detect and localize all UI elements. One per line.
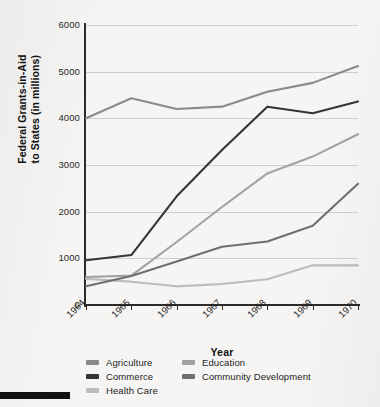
y-axis-tick-label: 1000	[40, 252, 80, 263]
legend-swatch-icon	[86, 388, 99, 393]
legend-column-right: EducationCommunity Development	[182, 356, 362, 384]
scan-artifact-bar	[0, 392, 70, 399]
series-line-commerce	[86, 102, 358, 261]
legend-label: Commerce	[106, 371, 153, 382]
legend-item[interactable]: Agriculture	[86, 356, 186, 369]
chart-page: Federal Grants-in-Aid to States (in mill…	[0, 0, 380, 407]
legend-label: Agriculture	[106, 357, 153, 368]
legend-swatch-icon	[182, 374, 195, 379]
series-line-community-development	[86, 184, 358, 287]
legend-swatch-icon	[182, 360, 195, 365]
y-axis-tick-labels: 0100020003000400050006000	[38, 25, 80, 305]
legend-swatch-icon	[86, 360, 99, 365]
y-axis-tick-label: 6000	[40, 19, 80, 30]
legend-label: Health Care	[106, 385, 158, 396]
y-axis-tick-label: 5000	[40, 66, 80, 77]
series-lines	[86, 25, 358, 305]
y-axis-tick-label: 3000	[40, 159, 80, 170]
legend-swatch-icon	[86, 374, 99, 379]
plot-area	[86, 25, 358, 305]
x-axis-tick-labels: 1964196519661967196819691970	[86, 310, 358, 344]
legend-label: Community Development	[202, 371, 311, 382]
y-axis-tick-label: 4000	[40, 112, 80, 123]
y-axis-title-line-1: Federal Grants-in-Aid	[16, 54, 28, 163]
series-line-agriculture	[86, 66, 358, 118]
y-axis-title-wrap: Federal Grants-in-Aid to States (in mill…	[0, 0, 40, 300]
legend-item[interactable]: Education	[182, 356, 362, 369]
y-axis-tick-label: 2000	[40, 206, 80, 217]
legend-label: Education	[202, 357, 245, 368]
legend-item[interactable]: Community Development	[182, 370, 362, 383]
legend-column-left: AgricultureCommerceHealth Care	[86, 356, 186, 398]
legend-item[interactable]: Commerce	[86, 370, 186, 383]
x-axis-tick	[358, 306, 359, 310]
legend-item[interactable]: Health Care	[86, 384, 186, 397]
